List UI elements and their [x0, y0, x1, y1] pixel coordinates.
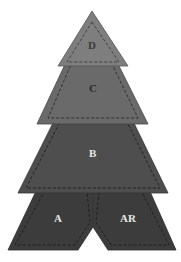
label-ar: AR	[120, 212, 136, 224]
label-b: B	[89, 147, 96, 159]
label-c: C	[89, 82, 97, 94]
label-a: A	[54, 212, 62, 224]
piece-a-ar	[8, 187, 176, 250]
label-d: D	[88, 39, 96, 51]
